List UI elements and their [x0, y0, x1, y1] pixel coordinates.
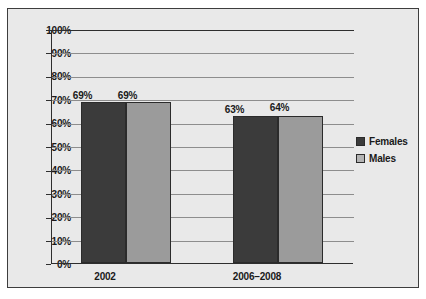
x-axis-category-label: 2002 — [60, 271, 150, 282]
bar-chart: 100% 90% 80% 70% 60% 50% 40% 30% 20% 10%… — [0, 0, 426, 299]
bar-males-2002 — [126, 102, 171, 264]
legend-item-females: Females — [356, 134, 408, 149]
bar-value-label: 69% — [105, 90, 150, 101]
bar-females-2002 — [81, 102, 126, 264]
bar-value-label: 64% — [257, 102, 302, 113]
gridline-90 — [52, 53, 354, 54]
legend-swatch-icon — [356, 154, 365, 163]
gridline-80 — [52, 77, 354, 78]
legend-item-males: Males — [356, 151, 408, 166]
gridline-100 — [52, 30, 354, 31]
bar-value-label: 63% — [212, 104, 257, 115]
bar-value-label: 69% — [60, 90, 105, 101]
bar-females-2006-2008 — [233, 116, 278, 263]
legend-label: Males — [369, 153, 396, 164]
x-axis-category-label: 2006–2008 — [212, 271, 302, 282]
bar-males-2006-2008 — [278, 116, 323, 263]
y-axis-tick-mark — [46, 264, 51, 265]
plot-area — [51, 30, 353, 264]
legend-swatch-icon — [356, 137, 365, 146]
legend-label: Females — [369, 136, 408, 147]
legend: Females Males — [356, 134, 408, 168]
